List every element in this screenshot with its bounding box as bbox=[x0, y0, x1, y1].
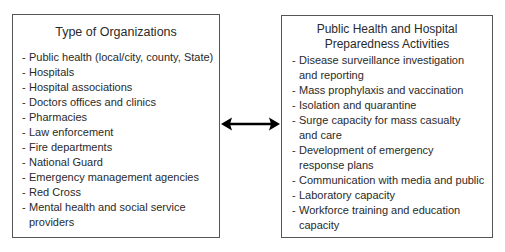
activity-item: -Laboratory capacity bbox=[292, 188, 492, 203]
item-text-continued: response plans bbox=[292, 158, 492, 173]
item-text: Mental health and social service bbox=[29, 201, 186, 213]
item-text: Law enforcement bbox=[29, 126, 113, 138]
organization-item: -National Guard bbox=[22, 155, 219, 170]
item-text: Pharmacies bbox=[29, 111, 87, 123]
item-text-continued: and care bbox=[292, 128, 492, 143]
item-text: Public health (local/city, county, State… bbox=[29, 51, 213, 63]
activity-item: -Development of emergencyresponse plans bbox=[292, 143, 492, 173]
activities-title-line2: Preparedness Activities bbox=[282, 37, 492, 52]
item-text: Hospitals bbox=[29, 66, 74, 78]
bullet-dash: - bbox=[292, 83, 299, 98]
bullet-dash: - bbox=[292, 113, 299, 128]
organization-item: -Doctors offices and clinics bbox=[22, 95, 219, 110]
item-text: National Guard bbox=[29, 156, 103, 168]
organization-item: -Red Cross bbox=[22, 185, 219, 200]
item-text: Doctors offices and clinics bbox=[29, 96, 156, 108]
bullet-dash: - bbox=[22, 170, 29, 185]
item-text-continued: providers bbox=[22, 215, 219, 230]
organization-item: -Hospitals bbox=[22, 65, 219, 80]
item-text-continued: and reporting bbox=[292, 68, 492, 83]
bullet-dash: - bbox=[22, 140, 29, 155]
item-text: Red Cross bbox=[29, 186, 81, 198]
bullet-dash: - bbox=[292, 203, 299, 218]
bullet-dash: - bbox=[292, 143, 299, 158]
activity-item: -Surge capacity for mass casualtyand car… bbox=[292, 113, 492, 143]
item-text: Isolation and quarantine bbox=[299, 99, 416, 111]
item-text: Communication with media and public bbox=[299, 174, 484, 186]
organization-item: -Public health (local/city, county, Stat… bbox=[22, 50, 219, 65]
item-text-continued: capacity bbox=[292, 218, 492, 233]
organization-item: -Mental health and social serviceprovide… bbox=[22, 200, 219, 230]
item-text: Hospital associations bbox=[29, 81, 132, 93]
activities-title-line1: Public Health and Hospital bbox=[282, 22, 492, 37]
bullet-dash: - bbox=[292, 188, 299, 203]
bullet-dash: - bbox=[22, 95, 29, 110]
organization-item: -Emergency management agencies bbox=[22, 170, 219, 185]
activities-list: -Disease surveillance investigationand r… bbox=[282, 53, 492, 233]
bidirectional-arrow-icon bbox=[221, 116, 280, 132]
activity-item: -Mass prophylaxis and vaccination bbox=[292, 83, 492, 98]
item-text: Laboratory capacity bbox=[299, 189, 395, 201]
bullet-dash: - bbox=[22, 200, 29, 215]
activity-item: -Workforce training and educationcapacit… bbox=[292, 203, 492, 233]
organization-item: -Hospital associations bbox=[22, 80, 219, 95]
bullet-dash: - bbox=[22, 50, 29, 65]
item-text: Development of emergency bbox=[299, 144, 434, 156]
organization-item: -Law enforcement bbox=[22, 125, 219, 140]
activity-item: -Communication with media and public bbox=[292, 173, 492, 188]
bullet-dash: - bbox=[292, 98, 299, 113]
bullet-dash: - bbox=[22, 155, 29, 170]
item-text: Surge capacity for mass casualty bbox=[299, 114, 460, 126]
bullet-dash: - bbox=[22, 125, 29, 140]
organization-item: -Pharmacies bbox=[22, 110, 219, 125]
activities-box: Public Health and Hospital Preparedness … bbox=[281, 15, 493, 238]
bullet-dash: - bbox=[22, 80, 29, 95]
item-text: Disease surveillance investigation bbox=[299, 54, 464, 66]
activity-item: -Isolation and quarantine bbox=[292, 98, 492, 113]
bullet-dash: - bbox=[292, 53, 299, 68]
bullet-dash: - bbox=[22, 110, 29, 125]
bullet-dash: - bbox=[22, 65, 29, 80]
item-text: Workforce training and education bbox=[299, 204, 460, 216]
activities-title: Public Health and Hospital Preparedness … bbox=[282, 22, 492, 51]
bullet-dash: - bbox=[22, 185, 29, 200]
item-text: Mass prophylaxis and vaccination bbox=[299, 84, 463, 96]
organizations-list: -Public health (local/city, county, Stat… bbox=[13, 50, 219, 230]
organization-item: -Fire departments bbox=[22, 140, 219, 155]
item-text: Emergency management agencies bbox=[29, 171, 199, 183]
organizations-title: Type of Organizations bbox=[13, 25, 219, 40]
item-text: Fire departments bbox=[29, 141, 112, 153]
bullet-dash: - bbox=[292, 173, 299, 188]
organizations-box: Type of Organizations -Public health (lo… bbox=[12, 14, 220, 238]
activity-item: -Disease surveillance investigationand r… bbox=[292, 53, 492, 83]
